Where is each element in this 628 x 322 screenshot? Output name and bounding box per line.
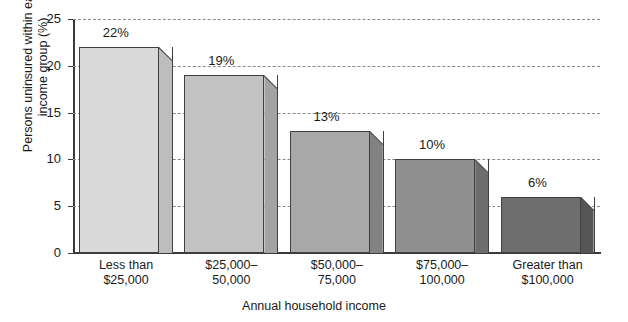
bar-side-2: [264, 75, 278, 253]
y-tick-mark-15: [68, 113, 73, 114]
bar-side-4: [475, 159, 489, 253]
y-tick-label-20: 20: [21, 58, 61, 73]
plot-area: 0510152025 22%19%13%10%6%: [73, 19, 600, 253]
bar-value-label-3: 13%: [314, 109, 340, 124]
bar-2: [184, 75, 264, 253]
category-label-5: Greater than$100,000: [513, 258, 583, 288]
y-tick-label-25: 25: [21, 11, 61, 26]
bar-face-3: [290, 131, 370, 253]
category-label-line1-4: $75,000–: [416, 258, 468, 273]
bar-side-fill-2: [264, 75, 277, 253]
y-tick-mark-20: [68, 66, 73, 67]
bar-face-2: [184, 75, 264, 253]
category-label-3: $50,000–75,000: [311, 258, 363, 288]
bar-value-label-2: 19%: [208, 53, 234, 68]
y-tick-mark-10: [68, 159, 73, 160]
bar-5: [501, 197, 581, 253]
category-label-line2-3: 75,000: [311, 273, 363, 288]
gridline-25: [73, 19, 600, 20]
bar-side-3: [370, 131, 384, 253]
bar-value-label-5: 6%: [528, 175, 547, 190]
category-label-2: $25,000–50,000: [205, 258, 257, 288]
y-tick-mark-5: [68, 206, 73, 207]
y-tick-label-15: 15: [21, 105, 61, 120]
category-label-line1-2: $25,000–: [205, 258, 257, 273]
y-tick-label-5: 5: [21, 198, 61, 213]
category-label-line2-5: $100,000: [513, 273, 583, 288]
y-tick-mark-0: [68, 253, 73, 254]
bar-1: [79, 47, 159, 253]
bar-face-4: [395, 159, 475, 253]
x-axis-title: Annual household income: [0, 299, 628, 313]
bar-3: [290, 131, 370, 253]
category-label-line2-2: 50,000: [205, 273, 257, 288]
category-label-line1-5: Greater than: [513, 258, 583, 273]
bar-side-5: [581, 197, 595, 253]
category-label-1: Less than$25,000: [99, 258, 153, 288]
category-label-line2-4: 100,000: [416, 273, 468, 288]
bar-value-label-4: 10%: [419, 137, 445, 152]
bar-side-1: [159, 47, 173, 253]
bar-side-fill-1: [159, 47, 172, 253]
y-tick-mark-25: [68, 19, 73, 20]
category-label-line1-1: Less than: [99, 258, 153, 273]
category-label-line1-3: $50,000–: [311, 258, 363, 273]
y-tick-label-10: 10: [21, 151, 61, 166]
bar-face-5: [501, 197, 581, 253]
category-label-4: $75,000–100,000: [416, 258, 468, 288]
bar-chart: Persons uninsured within each income gro…: [0, 0, 628, 322]
y-tick-label-0: 0: [21, 245, 61, 260]
bar-4: [395, 159, 475, 253]
category-label-line2-1: $25,000: [99, 273, 153, 288]
bar-value-label-1: 22%: [103, 25, 129, 40]
bar-face-1: [79, 47, 159, 253]
